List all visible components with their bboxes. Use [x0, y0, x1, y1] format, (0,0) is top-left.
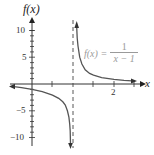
function-annotation: f(x) = 1 x − 1 — [84, 42, 138, 64]
y-axis-label: f(x) — [23, 4, 40, 15]
y-tick-neg10: −10 — [10, 133, 24, 142]
function-lhs: f(x) = — [84, 48, 107, 59]
function-fraction: 1 x − 1 — [110, 42, 138, 64]
y-tick-5: 5 — [22, 53, 27, 62]
y-tick-neg5: −5 — [16, 106, 26, 115]
curve-left-arrow-icon — [9, 84, 15, 89]
fraction-denominator: x − 1 — [114, 53, 135, 64]
y-tick-10: 10 — [16, 26, 25, 35]
fraction-numerator: 1 — [122, 42, 127, 52]
x-axis-label: x — [145, 78, 150, 89]
x-axis — [10, 81, 146, 87]
y-axis — [29, 17, 35, 146]
x-tick-2: 2 — [111, 88, 116, 97]
y-axis-arrow-icon — [29, 17, 35, 23]
curve-down-arrow-icon — [68, 143, 73, 149]
curve-up-arrow-icon — [74, 21, 79, 28]
